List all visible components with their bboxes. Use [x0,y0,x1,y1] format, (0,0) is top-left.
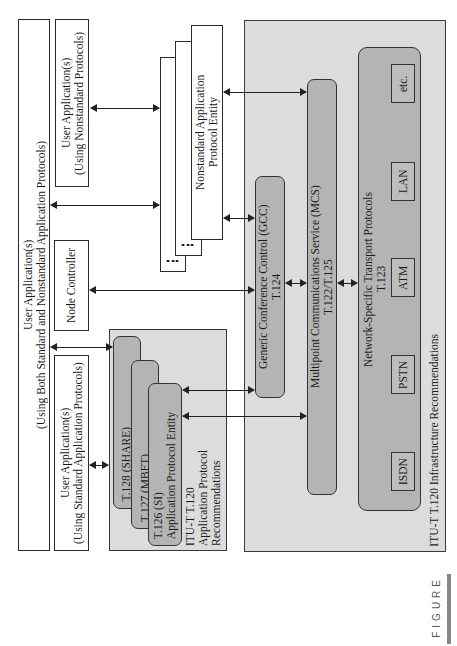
user-app-both-label: User Application(s) (Using Both Standard… [20,20,50,550]
network-atm: ATM [391,258,415,297]
network-etc: etc. [391,64,415,103]
infrastructure-recommendations-label: ITU-T T.120 Infrastructure Recommendatio… [428,334,441,547]
arrow-both-app-to-t128 [51,347,112,348]
arrow-entity-to-gcc [224,218,254,219]
network-etc-label: etc. [392,65,414,102]
user-app-standard-box: User Application(s) (Using Standard Appl… [54,355,89,551]
network-pstn-label: PSTN [392,356,414,393]
arrow-nonstd-app-to-entity [91,108,159,109]
mcs-box: Multipoint Communications Service (MCS) … [307,79,337,495]
gcc-box: Generic Conference Control (GCC) T.124 [255,176,285,398]
node-controller-box: Node Controller [54,240,89,331]
t126-si-box: T.126 (SI) Application Protocol Entity [148,383,182,546]
network-isdn-label: ISDN [392,453,414,490]
arrow-entity-to-mcs [224,92,306,93]
network-atm-label: ATM [392,259,414,296]
user-app-standard-label: User Application(s) (Using Standard Appl… [56,356,87,550]
arrow-both-app-to-entity [51,205,159,206]
arrow-std-app-to-panel [90,465,108,466]
arrow-mcs-to-transport [338,283,357,284]
figure-label: FIGURE [431,576,442,638]
user-app-both-box: User Application(s) (Using Both Standard… [18,19,50,551]
app-protocol-recommendations-label: ITU-T T.120 Application Protocol Recomme… [184,466,224,546]
figure-bar [447,574,451,644]
transport-label: Network-Specific Transport Protocols T.1… [361,48,389,510]
network-lan-label: LAN [392,163,414,200]
arrow-node-controller-to-gcc [90,290,254,291]
arrow-gcc-to-mcs [286,283,306,284]
nonstandard-entity-front: Nonstandard Application Protocol Entity [191,25,223,240]
network-lan: LAN [391,162,415,201]
arrow-t126-to-mcs [183,416,306,417]
user-app-nonstandard-box: User Application(s) (Using Nonstandard P… [55,19,89,187]
node-controller-label: Node Controller [55,241,88,330]
nonstandard-entity-label: Nonstandard Application Protocol Entity [193,26,221,239]
gcc-label: Generic Conference Control (GCC) T.124 [257,177,283,397]
user-app-nonstandard-label: User Application(s) (Using Nonstandard P… [57,20,88,186]
t126-label: T.126 (SI) Application Protocol Entity [152,412,178,539]
arrow-t126-to-gcc [183,390,254,391]
network-isdn: ISDN [391,452,415,491]
ellipsis-icon: ⋮ [183,238,191,251]
network-pstn: PSTN [391,355,415,394]
mcs-label: Multipoint Communications Service (MCS) … [309,80,335,494]
